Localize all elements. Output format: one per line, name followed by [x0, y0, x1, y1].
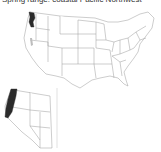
range-map — [0, 0, 161, 152]
inset-western-us-map — [5, 89, 52, 148]
main-us-map — [24, 12, 154, 88]
